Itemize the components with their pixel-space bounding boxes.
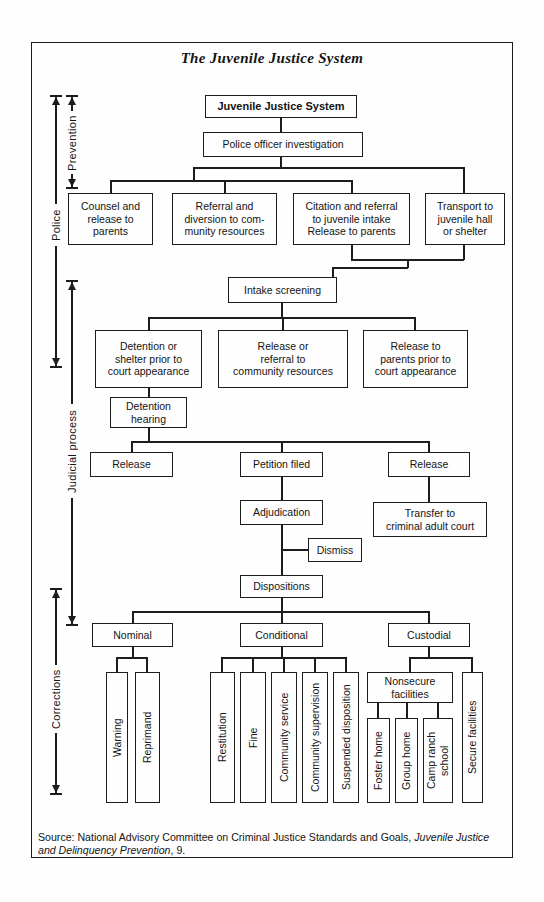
connector xyxy=(332,267,334,277)
connector xyxy=(116,657,148,659)
flow-box-detention-hearing: Detention hearing xyxy=(110,397,187,428)
flow-box-release-referral: Release or referral to community resourc… xyxy=(218,330,348,388)
connector xyxy=(351,245,353,260)
connector xyxy=(281,303,283,318)
connector xyxy=(332,267,408,269)
flow-box-conditional: Conditional xyxy=(240,623,323,647)
connector xyxy=(148,388,150,397)
flow-box-nonsecure-facilities: Nonsecure facilities xyxy=(367,672,453,703)
connector xyxy=(252,657,254,672)
bracket-cap xyxy=(66,624,78,626)
connector xyxy=(131,441,429,443)
connector xyxy=(111,180,353,182)
bracket-line xyxy=(71,96,73,111)
connector xyxy=(281,549,308,551)
flow-box-transfer-adult-court: Transfer to criminal adult court xyxy=(373,502,487,537)
arrow-down-icon xyxy=(52,785,60,793)
flow-box-police-investigation: Police officer investigation xyxy=(203,132,363,157)
connector xyxy=(281,611,283,623)
flow-box-fine: Fine xyxy=(240,672,266,803)
connector xyxy=(377,703,379,718)
connector xyxy=(463,245,465,260)
connector xyxy=(437,703,439,718)
flow-box-nominal: Nominal xyxy=(92,623,173,647)
section-label-judicial-process: Judicial process xyxy=(64,405,80,497)
connector xyxy=(471,657,473,672)
connector xyxy=(148,317,150,330)
bracket-line xyxy=(71,498,73,625)
flow-box-transport: Transport to juvenile hall or shelter xyxy=(425,193,505,245)
flow-box-suspended-disposition: Suspended disposition xyxy=(333,672,359,803)
flow-box-intake-screening: Intake screening xyxy=(228,277,337,303)
bracket-line xyxy=(55,733,57,793)
connector xyxy=(283,657,285,672)
flow-box-foster-home: Foster home xyxy=(367,718,390,803)
flow-box-petition-filed: Petition filed xyxy=(240,452,323,477)
connector xyxy=(116,657,118,672)
connector xyxy=(428,477,430,502)
flow-box-root: Juvenile Justice System xyxy=(205,95,357,118)
connector xyxy=(131,441,133,452)
connector xyxy=(146,657,148,672)
flow-box-dismiss: Dismiss xyxy=(308,538,362,562)
connector xyxy=(351,180,353,193)
bracket-cap xyxy=(66,187,78,189)
flow-box-group-home: Group home xyxy=(395,718,418,803)
connector xyxy=(428,611,430,623)
connector xyxy=(281,441,283,452)
connector xyxy=(221,657,223,672)
flow-box-dispositions: Dispositions xyxy=(240,575,323,598)
connector xyxy=(345,657,347,672)
flow-box-release-right: Release xyxy=(388,452,470,477)
connector xyxy=(132,611,134,623)
flow-box-citation-referral: Citation and referral to juvenile intake… xyxy=(293,193,410,245)
figure-title: The Juvenile Justice System xyxy=(31,50,513,67)
bracket-line xyxy=(55,589,57,665)
figure-canvas: The Juvenile Justice System Prevention P… xyxy=(0,0,544,902)
flow-box-counsel-release: Counsel and release to parents xyxy=(68,193,153,245)
flow-box-adjudication: Adjudication xyxy=(240,500,323,525)
flow-box-secure-facilities: Secure facilities xyxy=(462,672,483,803)
arrow-down-icon xyxy=(68,616,76,624)
flow-box-release-left: Release xyxy=(90,452,173,477)
connector xyxy=(193,167,464,169)
arrow-down-icon xyxy=(68,179,76,187)
connector xyxy=(414,317,416,330)
connector xyxy=(281,598,283,612)
arrow-down-icon xyxy=(52,358,60,366)
source-suffix: , 9. xyxy=(171,844,186,856)
flow-box-detention-shelter: Detention or shelter prior to court appe… xyxy=(95,330,202,388)
bracket-line xyxy=(55,96,57,204)
source-prefix: Source: National Advisory Committee on C… xyxy=(38,831,414,843)
flow-box-restitution: Restitution xyxy=(210,672,235,803)
flow-box-community-service: Community service xyxy=(271,672,297,803)
connector xyxy=(110,180,112,193)
connector xyxy=(406,703,408,718)
connector xyxy=(282,317,284,330)
connector xyxy=(193,167,195,181)
flow-box-referral-diversion: Referral and diversion to com- munity re… xyxy=(172,193,277,245)
flow-box-custodial: Custodial xyxy=(388,623,470,647)
flow-box-community-supervision: Community supervision xyxy=(302,672,328,803)
flow-box-camp-ranch-school: Camp ranch school xyxy=(423,718,453,803)
bracket-line xyxy=(71,281,73,404)
section-label-police: Police xyxy=(48,205,64,245)
connector xyxy=(280,118,282,132)
connector xyxy=(409,657,411,672)
connector xyxy=(463,167,465,193)
connector xyxy=(409,657,472,659)
connector xyxy=(224,180,226,193)
connector xyxy=(281,477,283,500)
connector xyxy=(314,657,316,672)
flow-box-release-parents: Release to parents prior to court appear… xyxy=(363,330,468,388)
bracket-cap xyxy=(50,793,62,795)
section-label-prevention: Prevention xyxy=(64,112,80,174)
section-label-corrections: Corrections xyxy=(48,666,64,732)
bracket-line xyxy=(55,246,57,367)
connector xyxy=(428,441,430,452)
source-citation: Source: National Advisory Committee on C… xyxy=(38,831,506,858)
flow-box-reprimand: Reprimand xyxy=(135,672,160,803)
bracket-cap xyxy=(50,366,62,368)
flow-box-warning: Warning xyxy=(106,672,128,803)
